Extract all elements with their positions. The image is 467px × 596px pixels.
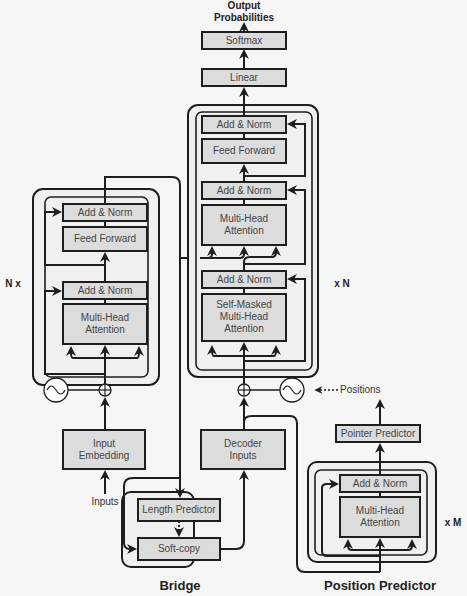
input-embedding-line2: Embedding: [63, 450, 145, 462]
decoder-inputs-line1: Decoder: [201, 438, 285, 450]
decoder-add-norm-top-label: Add & Norm: [202, 119, 286, 131]
encoder-inputs-label: Inputs: [80, 496, 130, 508]
cross-attention-line1: Multi-Head: [202, 213, 286, 225]
pointer-predictor-label: Pointer Predictor: [336, 428, 420, 440]
decoder-feed-forward-label: Feed Forward: [202, 145, 286, 157]
position-add-norm-label: Add & Norm: [340, 478, 420, 490]
decoder-cross-attention-label: Multi-Head Attention: [202, 213, 286, 237]
position-repeat-label: x M: [440, 517, 466, 529]
decoder-inputs-line2: Inputs: [201, 450, 285, 462]
output-probabilities-label: Output Probabilities: [214, 0, 274, 24]
decoder-add-norm-mid-label: Add & Norm: [202, 185, 286, 197]
self-attention-line1: Self-Masked: [202, 299, 286, 311]
encoder-attention-label: Multi-Head Attention: [63, 312, 147, 336]
encoder-add-norm-bottom-label: Add & Norm: [63, 285, 147, 297]
cross-attention-line2: Attention: [202, 225, 286, 237]
decoder-self-attention-label: Self-Masked Multi-Head Attention: [202, 299, 286, 335]
input-embedding-line1: Input: [63, 438, 145, 450]
encoder-add-norm-top-label: Add & Norm: [63, 207, 147, 219]
input-embedding-label: Input Embedding: [63, 438, 145, 462]
softmax-label: Softmax: [202, 35, 286, 47]
length-predictor-label: Length Predictor: [138, 504, 220, 516]
soft-copy-label: Soft-copy: [138, 543, 220, 555]
self-attention-line2: Multi-Head: [202, 311, 286, 323]
positions-label: Positions: [340, 384, 400, 396]
encoder-attention-line1: Multi-Head: [63, 312, 147, 324]
position-attention-line2: Attention: [340, 517, 420, 529]
decoder-repeat-label: x N: [330, 278, 354, 290]
output-label-line1: Output: [214, 0, 274, 12]
encoder-attention-line2: Attention: [63, 324, 147, 336]
position-attention-line1: Multi-Head: [340, 505, 420, 517]
linear-label: Linear: [202, 72, 286, 84]
output-label-line2: Probabilities: [214, 12, 274, 24]
bridge-title: Bridge: [130, 580, 230, 592]
position-attention-label: Multi-Head Attention: [340, 505, 420, 529]
decoder-inputs-label: Decoder Inputs: [201, 438, 285, 462]
encoder-feed-forward-label: Feed Forward: [63, 233, 147, 245]
position-predictor-title: Position Predictor: [300, 580, 460, 592]
decoder-add-norm-bottom-label: Add & Norm: [202, 274, 286, 286]
self-attention-line3: Attention: [202, 323, 286, 335]
encoder-repeat-label: N x: [0, 278, 26, 290]
